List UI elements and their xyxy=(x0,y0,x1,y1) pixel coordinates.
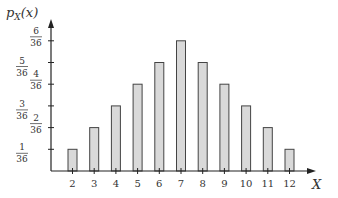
pmf-bar-chart: 136236336436536636 23456789101112 pX(x) … xyxy=(0,0,338,198)
bar-11 xyxy=(263,128,272,171)
bar-10 xyxy=(242,106,251,171)
y-tick-denominator: 36 xyxy=(30,38,42,48)
x-tick-label: 5 xyxy=(134,178,140,189)
y-tick-numerator: 3 xyxy=(19,99,25,109)
x-tick-label: 10 xyxy=(240,178,253,189)
y-axis-label: pX(x) xyxy=(6,5,38,22)
bar-2 xyxy=(68,149,77,171)
y-tick-denominator: 36 xyxy=(30,125,42,135)
y-tick-denominator: 36 xyxy=(16,111,28,121)
x-tick-label: 2 xyxy=(69,178,75,189)
x-tick-label: 3 xyxy=(91,178,97,189)
bar-3 xyxy=(90,128,99,171)
x-tick-label: 11 xyxy=(261,178,274,189)
y-axis-arrow-icon xyxy=(48,19,54,28)
bar-6 xyxy=(155,63,164,172)
x-axis-arrow-icon xyxy=(307,168,316,174)
x-axis-label: X xyxy=(311,177,322,192)
bar-7 xyxy=(177,41,186,171)
x-tick-label: 7 xyxy=(178,178,184,189)
y-tick-numerator: 1 xyxy=(19,142,25,152)
bar-5 xyxy=(133,84,142,171)
y-tick-numerator: 5 xyxy=(19,56,25,66)
y-ticks: 136236336436536636 xyxy=(16,26,54,165)
y-tick-denominator: 36 xyxy=(16,154,28,164)
y-tick-numerator: 2 xyxy=(33,113,39,123)
bar-4 xyxy=(111,106,120,171)
x-tick-label: 4 xyxy=(113,178,119,189)
x-tick-label: 6 xyxy=(156,178,162,189)
bar-8 xyxy=(198,63,207,172)
bars xyxy=(68,41,294,171)
x-tick-label: 9 xyxy=(221,178,227,189)
bar-12 xyxy=(285,149,294,171)
x-tick-label: 12 xyxy=(283,178,296,189)
y-tick-denominator: 36 xyxy=(30,81,42,91)
y-tick-denominator: 36 xyxy=(16,68,28,78)
bar-9 xyxy=(220,84,229,171)
y-tick-numerator: 4 xyxy=(33,69,39,79)
x-tick-label: 8 xyxy=(200,178,206,189)
y-tick-numerator: 6 xyxy=(33,26,39,36)
